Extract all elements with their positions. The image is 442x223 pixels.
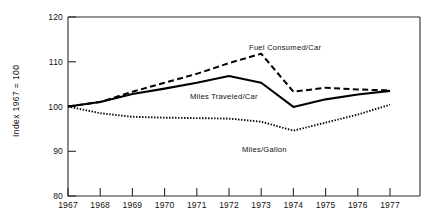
line-chart: 120 110 100 90 80 Index 1967 = 100 1967 … <box>0 0 442 223</box>
x-tick-label: 1975 <box>316 200 336 210</box>
y-tick-label: 110 <box>49 57 63 67</box>
x-tick-label: 1967 <box>58 200 78 210</box>
x-tick-label: 1973 <box>251 200 271 210</box>
x-tick-label: 1972 <box>219 200 239 210</box>
x-axis-ticks <box>68 188 390 196</box>
axis-frame <box>68 17 420 196</box>
y-axis-tick-labels: 120 110 100 90 80 <box>48 12 63 201</box>
x-tick-label: 1968 <box>90 200 110 210</box>
y-tick-label: 90 <box>53 146 63 156</box>
annotation-miles-traveled-per-car: Miles Traveled/Car <box>190 92 258 101</box>
x-tick-label: 1977 <box>380 200 400 210</box>
x-tick-label: 1971 <box>187 200 207 210</box>
series-annotations: Fuel Consumed/Car Miles Traveled/Car Mil… <box>190 43 321 154</box>
chart-container: 120 110 100 90 80 Index 1967 = 100 1967 … <box>0 0 442 223</box>
x-axis-tick-labels: 1967 1968 1969 1970 1971 1972 1973 1974 … <box>58 200 400 210</box>
y-tick-label: 100 <box>48 102 63 112</box>
y-tick-label: 120 <box>48 12 63 22</box>
x-tick-label: 1974 <box>284 200 304 210</box>
x-tick-label: 1970 <box>155 200 175 210</box>
series-line-miles-per-gallon <box>68 105 390 131</box>
x-tick-label: 1976 <box>348 200 368 210</box>
y-axis-title: Index 1967 = 100 <box>11 65 21 137</box>
x-tick-label: 1969 <box>123 200 143 210</box>
annotation-fuel-consumed-per-car: Fuel Consumed/Car <box>249 43 321 52</box>
annotation-miles-per-gallon: Miles/Gallon <box>242 145 287 154</box>
